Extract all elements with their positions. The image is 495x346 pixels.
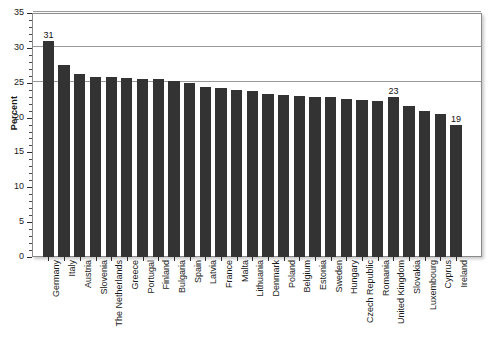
bar[interactable] (278, 95, 289, 257)
x-tick (205, 257, 206, 261)
x-tick (425, 257, 426, 261)
x-axis-label: Greece (131, 260, 140, 344)
x-axis-label: Hungary (350, 260, 359, 344)
x-axis-label: Belgium (303, 260, 312, 344)
x-axis-label: Sweden (335, 260, 344, 344)
bar[interactable] (168, 81, 179, 257)
bar[interactable] (356, 100, 367, 257)
bar[interactable] (403, 106, 414, 257)
bar[interactable] (309, 97, 320, 257)
bar[interactable] (262, 94, 273, 257)
x-axis-label: Estonia (319, 260, 328, 344)
y-tick-label: 15 (2, 147, 24, 156)
x-tick (143, 257, 144, 261)
bar-chart: Percent 05101520253035 312319 GermanyIta… (0, 0, 495, 346)
x-tick (111, 257, 112, 261)
x-tick (252, 257, 253, 261)
x-axis-label: Luxembourg (429, 260, 438, 344)
bar-series: 312319 (32, 13, 482, 257)
bar[interactable] (137, 79, 148, 257)
bar[interactable] (58, 65, 69, 257)
bar[interactable] (90, 77, 101, 257)
x-tick (221, 257, 222, 261)
x-axis-label: Slovakia (413, 260, 422, 344)
x-axis-label: Malta (241, 260, 250, 344)
x-axis-label: Spain (194, 260, 203, 344)
y-tick-label: 25 (2, 78, 24, 87)
bar-value-label: 31 (38, 31, 58, 40)
bar[interactable] (106, 77, 117, 257)
x-axis-label: Denmark (272, 260, 281, 344)
bar[interactable] (231, 90, 242, 257)
x-axis-label: Austria (84, 260, 93, 344)
x-axis-label: Ireland (460, 260, 469, 344)
x-tick (409, 257, 410, 261)
x-axis-label: Lithuania (256, 260, 265, 344)
x-axis-label: Czech Republic (366, 260, 375, 344)
x-tick (440, 257, 441, 261)
x-tick (64, 257, 65, 261)
x-axis-label: Slovenia (100, 260, 109, 344)
bar[interactable]: 19 (450, 125, 461, 257)
x-axis-label: France (225, 260, 234, 344)
x-tick (378, 257, 379, 261)
x-axis-labels: GermanyItalyAustriaSloveniaThe Netherlan… (32, 262, 482, 346)
x-tick (346, 257, 347, 261)
x-tick (127, 257, 128, 261)
x-axis-label: Bulgaria (178, 260, 187, 344)
bar[interactable] (341, 99, 352, 257)
bar[interactable] (435, 114, 446, 257)
x-tick (456, 257, 457, 261)
bar[interactable] (372, 101, 383, 257)
bar[interactable] (325, 97, 336, 257)
bar[interactable] (74, 74, 85, 257)
bar[interactable]: 23 (388, 97, 399, 257)
x-tick (331, 257, 332, 261)
bar-value-label: 19 (446, 115, 466, 124)
x-axis-label: Portugal (147, 260, 156, 344)
y-tick-label: 20 (2, 113, 24, 122)
gridline (33, 11, 481, 12)
x-tick (268, 257, 269, 261)
x-tick (96, 257, 97, 261)
bar[interactable] (294, 96, 305, 257)
bar[interactable] (153, 79, 164, 257)
x-tick (362, 257, 363, 261)
bar[interactable] (419, 111, 430, 257)
x-tick (237, 257, 238, 261)
y-tick-label: 0 (2, 252, 24, 261)
x-tick (174, 257, 175, 261)
y-tick-label: 30 (2, 43, 24, 52)
y-tick-label: 35 (2, 8, 24, 17)
x-tick (158, 257, 159, 261)
x-tick (80, 257, 81, 261)
bar-value-label: 23 (383, 87, 403, 96)
bar[interactable] (184, 83, 195, 257)
bar[interactable]: 31 (43, 41, 54, 257)
bar[interactable] (200, 87, 211, 257)
bar[interactable] (121, 78, 132, 257)
x-axis-label: Latvia (209, 260, 218, 344)
x-tick (315, 257, 316, 261)
x-axis-label: Finland (162, 260, 171, 344)
x-tick (393, 257, 394, 261)
y-tick-label: 5 (2, 217, 24, 226)
x-tick (284, 257, 285, 261)
x-axis-label: Italy (68, 260, 77, 344)
x-axis-label: The Netherlands (115, 260, 124, 344)
y-tick-label: 10 (2, 182, 24, 191)
x-axis-label: United Kingdom (397, 260, 406, 344)
bar[interactable] (215, 88, 226, 257)
bar[interactable] (247, 91, 258, 257)
x-tick (48, 257, 49, 261)
x-tick (299, 257, 300, 261)
x-axis-label: Poland (288, 260, 297, 344)
x-tick (190, 257, 191, 261)
x-axis-label: Romania (382, 260, 391, 344)
x-axis-label: Germany (52, 260, 61, 344)
x-axis-label: Cyprus (444, 260, 453, 344)
